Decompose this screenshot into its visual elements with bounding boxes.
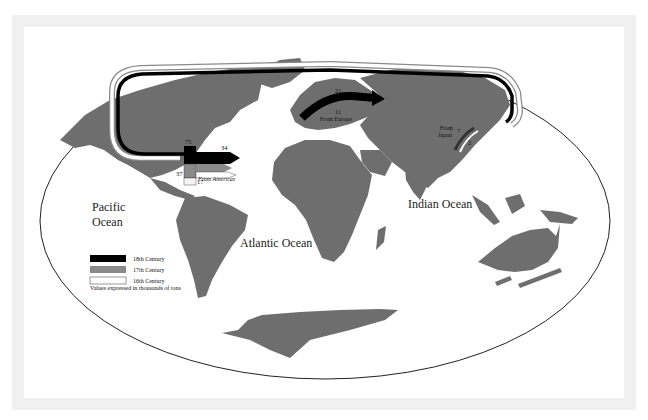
south-america [176,196,248,298]
new-zealand [495,276,512,286]
new-zealand-south [518,268,562,288]
japan-label-line1: From [440,125,453,131]
europe-flow-label: From Europe [320,116,352,122]
americas-bar-18th [184,146,196,164]
pacific-ocean-label-line2: Ocean [92,215,123,229]
americas-bar-17th [184,164,196,178]
legend-note: Values expressed in thousands of tons [90,285,181,291]
japan-value-16th: 2 [468,139,471,146]
americas-arrow-17th [196,164,232,172]
legend: 18th Century 17th Century 16th Century V… [90,255,181,291]
americas-flow-label: From Americas [197,176,236,182]
legend-swatch-18th [90,255,126,262]
americas-arrow-18th [196,152,240,164]
atlantic-ocean-label: Atlantic Ocean [240,236,312,250]
legend-label-16th: 16th Century [133,278,165,284]
legend-swatch-17th [90,266,126,273]
australia [478,224,560,272]
indian-ocean-label: Indian Ocean [408,197,472,211]
americas-bar-16th [184,178,196,185]
antarctica [222,309,398,358]
legend-label-17th: 17th Century [133,267,165,273]
madagascar [376,226,386,250]
india [405,165,430,200]
americas-value-18th: 34 [221,144,228,151]
legend-label-18th: 18th Century [133,256,165,262]
pacific-ocean-label-line1: Pacific [92,200,125,214]
europe-value-18th: 21 [335,87,342,94]
americas-value-17th: 37 [176,170,183,177]
americas-value-18th-top: 75 [185,138,192,145]
sumatra [472,195,500,225]
japan-label-line2: Japan [438,132,452,138]
legend-swatch-16th [90,277,126,284]
europe-value-17th: 11 [335,108,341,115]
new-guinea [540,210,578,224]
borneo [505,194,525,214]
world-map: 75 34 37 17 From Americas 21 11 From Eur… [0,0,648,420]
